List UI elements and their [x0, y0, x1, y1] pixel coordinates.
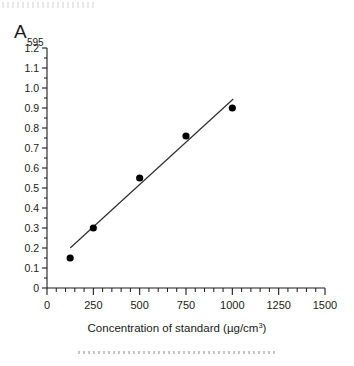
x-tick-label: 0	[44, 299, 50, 311]
y-tick-label: 0.8	[24, 122, 39, 134]
x-axis-tick-labels: 0250500750100012501500	[44, 299, 337, 311]
y-tick-label: 1.2	[24, 42, 39, 54]
y-tick-label: 0	[33, 282, 39, 294]
data-point-marker	[182, 132, 189, 139]
y-tick-label: 1.1	[24, 62, 39, 74]
x-axis-label-superscript: 3	[258, 321, 262, 330]
data-points	[67, 104, 236, 261]
x-tick-label: 1250	[266, 299, 290, 311]
y-tick-label: 0.4	[24, 202, 39, 214]
data-point-marker	[229, 104, 236, 111]
x-tick-label: 500	[130, 299, 148, 311]
data-point-marker	[136, 174, 143, 181]
y-tick-label: 0.6	[24, 162, 39, 174]
x-tick-label: 1000	[220, 299, 244, 311]
y-tick-label: 1.0	[24, 82, 39, 94]
x-tick-label: 1500	[313, 299, 337, 311]
y-tick-label: 0.5	[24, 182, 39, 194]
data-point-marker	[90, 224, 97, 231]
x-axis-label: Concentration of standard (µg/cm3)	[0, 320, 354, 334]
x-axis-label-main: Concentration of standard (µg/cm	[88, 322, 259, 334]
y-axis-tick-labels: 00.10.20.30.40.50.60.70.80.91.01.11.2	[24, 42, 39, 294]
y-tick-label: 0.7	[24, 142, 39, 154]
y-tick-label: 0.3	[24, 222, 39, 234]
y-axis-major-ticks	[42, 48, 47, 288]
y-tick-label: 0.1	[24, 262, 39, 274]
x-tick-label: 250	[84, 299, 102, 311]
y-tick-label: 0.9	[24, 102, 39, 114]
data-point-marker	[67, 254, 74, 261]
standard-curve-chart: 00.10.20.30.40.50.60.70.80.91.01.11.2 02…	[0, 0, 354, 366]
x-axis-label-tail: )	[263, 322, 267, 334]
y-tick-label: 0.2	[24, 242, 39, 254]
x-tick-label: 750	[177, 299, 195, 311]
x-axis-major-ticks	[47, 288, 325, 295]
scan-artifact-bottom-icon	[78, 351, 276, 354]
chart-page: A595 00.10.20.30.40.50.60.70.80.91.01.11…	[0, 0, 354, 366]
